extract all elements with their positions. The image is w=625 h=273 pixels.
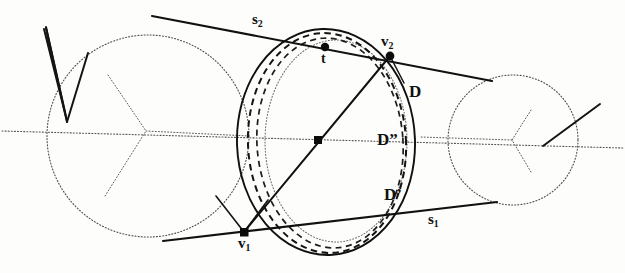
point-center bbox=[314, 136, 322, 144]
v1-segment-right bbox=[244, 200, 268, 232]
label-v1: v1 bbox=[238, 236, 250, 253]
axis-of-revolution bbox=[2, 131, 623, 148]
right-sphere-outline bbox=[448, 75, 578, 205]
point-v2 bbox=[386, 52, 395, 61]
label-s2-subscript: 2 bbox=[258, 18, 263, 29]
point-t bbox=[321, 43, 329, 51]
label-D-prime: D’ bbox=[384, 186, 402, 203]
label-v2: v2 bbox=[381, 34, 393, 51]
right-sphere-group bbox=[420, 75, 578, 205]
label-t: t bbox=[321, 52, 326, 66]
label-D-double-prime: D” bbox=[377, 131, 398, 148]
label-v1-base: v bbox=[238, 235, 246, 251]
right-sphere-spokes bbox=[420, 110, 531, 172]
right-sphere-tangent-ray bbox=[543, 104, 600, 146]
label-s1: s1 bbox=[428, 212, 439, 229]
tangent-line-s1 bbox=[163, 202, 497, 241]
v1-segment-left bbox=[216, 196, 244, 232]
v2-segment-down bbox=[390, 56, 404, 83]
label-v2-subscript: 2 bbox=[389, 40, 394, 51]
label-v2-base: v bbox=[381, 33, 389, 49]
figure-canvas: s2 t v2 D D” D’ s1 v1 bbox=[0, 0, 625, 273]
geometry-diagram bbox=[0, 0, 625, 273]
left-sphere-group bbox=[47, 35, 249, 237]
label-D: D bbox=[409, 83, 421, 100]
left-sphere-ray-upper bbox=[46, 28, 67, 122]
label-s2: s2 bbox=[252, 12, 263, 29]
label-s1-subscript: 1 bbox=[434, 218, 439, 229]
label-v1-subscript: 1 bbox=[246, 242, 251, 253]
left-sphere-outline bbox=[47, 35, 249, 237]
